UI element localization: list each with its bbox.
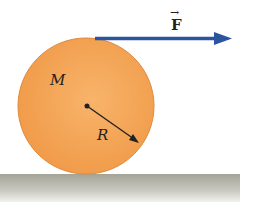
physics-diagram: M R F → xyxy=(0,0,254,202)
ground xyxy=(0,174,240,202)
radius-label: R xyxy=(96,126,108,144)
vector-arrow-icon: → xyxy=(170,6,179,19)
mass-label: M xyxy=(49,71,66,89)
force-arrow xyxy=(95,32,232,45)
